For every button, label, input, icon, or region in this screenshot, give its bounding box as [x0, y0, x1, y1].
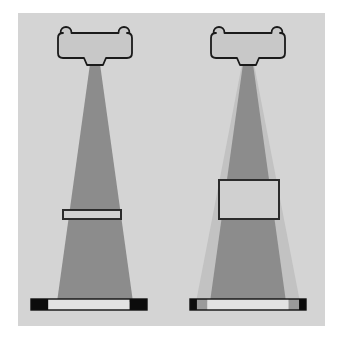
detector-bar-group-right[interactable]: [190, 299, 306, 310]
radiation-source-head[interactable]: [211, 27, 285, 65]
bar-end-right-dark: [299, 299, 306, 310]
bar-end-left-dark: [190, 299, 197, 310]
radiation-source-head[interactable]: [58, 27, 132, 65]
thin-attenuator-slab[interactable]: [63, 210, 121, 219]
bar-interior: [48, 299, 129, 310]
scene-right: [190, 27, 306, 310]
thick-scattering-phantom[interactable]: [219, 180, 279, 219]
bar-penumbra-left: [197, 299, 207, 310]
bar-end-left-dark: [31, 299, 48, 310]
scene-left: [31, 27, 147, 310]
figure-root: [0, 0, 340, 341]
bar-penumbra-right: [289, 299, 299, 310]
scene-canvas: [18, 13, 325, 326]
bar-interior: [207, 299, 288, 310]
primary-beam-fan: [57, 64, 133, 302]
detector-bar-group-left[interactable]: [31, 299, 147, 310]
bar-end-right-dark: [130, 299, 147, 310]
figure-panel: [18, 13, 325, 326]
